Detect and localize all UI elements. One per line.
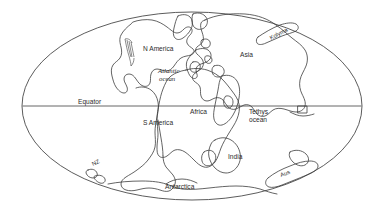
label-new-zealand: NZ [91,158,101,167]
new-zealand-second-sliver [94,175,105,183]
label-s-america: S America [143,119,173,126]
australia-north-block-outline [289,150,308,166]
label-tethys-ocean-line2: ocean [249,116,267,123]
arctic-block-outline [192,13,207,29]
western-terrane-hatching [125,39,134,66]
label-antarctica: Antarctica [165,183,195,190]
world-map-svg: N America Atlantic ocean Asia Kolyma Equ… [0,0,383,212]
continent-outlines [86,13,318,194]
label-africa: Africa [190,108,207,115]
microplate-a-outline [201,39,210,48]
label-tethys-ocean-line1: Tethys [249,108,269,116]
map-labels: N America Atlantic ocean Asia Kolyma Equ… [78,26,291,190]
label-india: India [228,153,243,160]
arabia-block-outline [214,75,240,125]
iberia-block-outline [190,62,200,73]
label-atlantic-ocean-line1: Atlantic [157,67,180,74]
label-equator: Equator [78,98,102,106]
label-asia: Asia [240,51,253,58]
paleogeographic-map: N America Atlantic ocean Asia Kolyma Equ… [0,0,383,212]
australia-outline [266,161,318,187]
north-america-outline [111,20,194,93]
label-n-america: N America [143,45,174,52]
microplate-b-outline [205,56,212,64]
label-atlantic-ocean-line2: ocean [159,75,176,82]
new-zealand-outline [86,169,97,178]
south-america-outline [121,87,175,191]
